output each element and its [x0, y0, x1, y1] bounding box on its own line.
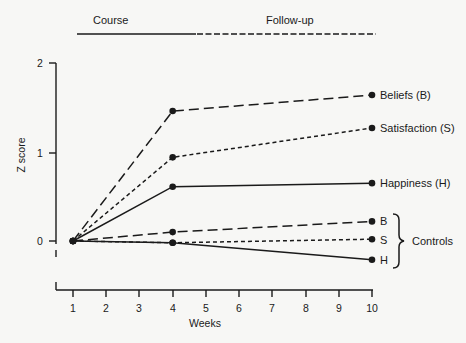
series-controls-b: [70, 218, 376, 244]
x-tick-label: 8: [303, 302, 309, 314]
data-point: [369, 218, 376, 225]
data-point: [369, 236, 376, 243]
series-beliefs-b: [70, 92, 376, 245]
series-controls-s: [70, 236, 376, 246]
x-tick-label: 10: [366, 302, 378, 314]
x-ticks: [73, 290, 372, 297]
data-point: [369, 125, 376, 132]
series-label-satisfaction: Satisfaction (S): [380, 122, 455, 134]
x-tick-label: 6: [236, 302, 242, 314]
x-tick-label: 1: [70, 302, 76, 314]
series-label-control-b: B: [380, 215, 387, 227]
data-point: [169, 108, 176, 115]
y-tick-label: 0: [37, 235, 43, 247]
controls-group-brace: Controls: [393, 214, 453, 268]
x-tick-label: 5: [203, 302, 209, 314]
x-axis-label: Weeks: [189, 317, 221, 329]
y-tick-label: 1: [37, 147, 43, 159]
followup-label: Follow-up: [266, 14, 314, 26]
x-tick-label: 7: [269, 302, 275, 314]
series-layer: [70, 92, 376, 263]
series-label-happiness: Happiness (H): [380, 177, 450, 189]
controls-label: Controls: [412, 235, 453, 247]
x-axis: 1 2 3 4 5 6 7 8 9 10 Weeks: [56, 290, 378, 329]
y-axis: 2 1 0 Z score: [15, 57, 56, 290]
data-point: [70, 238, 77, 245]
phase-bar: Course Follow-up: [77, 14, 376, 34]
x-tick-label: 9: [336, 302, 342, 314]
x-tick-label: 2: [103, 302, 109, 314]
x-tick-label: 3: [136, 302, 142, 314]
series-label-control-h: H: [380, 254, 388, 266]
course-label: Course: [93, 14, 128, 26]
series-label-beliefs: Beliefs (B): [380, 89, 431, 101]
data-point: [169, 239, 176, 246]
series-label-control-s: S: [380, 234, 387, 246]
x-tick-label: 4: [170, 302, 176, 314]
data-point: [369, 180, 376, 187]
line-chart: Course Follow-up 2 1 0 Z score: [0, 0, 466, 343]
series-happiness-h: [70, 180, 376, 244]
data-point: [369, 256, 376, 263]
data-point: [169, 154, 176, 161]
data-point: [369, 92, 376, 99]
y-tick-label: 2: [37, 57, 43, 69]
data-point: [169, 229, 176, 236]
data-point: [169, 183, 176, 190]
y-axis-label: Z score: [15, 137, 27, 172]
